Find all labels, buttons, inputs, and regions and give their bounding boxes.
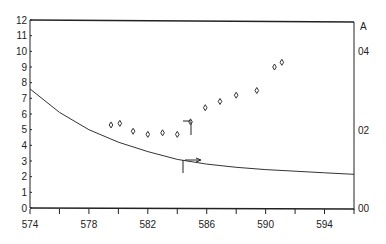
chart: 0123456789101112 574578582586590594 0002… bbox=[0, 0, 386, 244]
data-point-diamond bbox=[109, 122, 113, 128]
y-tick-label: 4 bbox=[21, 140, 27, 151]
y2-tick-label: 02 bbox=[358, 125, 370, 136]
data-point-diamond bbox=[146, 131, 150, 137]
y-tick-label: 8 bbox=[21, 77, 27, 88]
y-tick-label: 2 bbox=[21, 171, 27, 182]
y-tick-label: 5 bbox=[21, 124, 27, 135]
y2-tick-label: 00 bbox=[358, 203, 370, 214]
data-point-diamond bbox=[273, 64, 277, 70]
y-tick-label: 12 bbox=[16, 15, 28, 26]
data-point-diamond bbox=[118, 120, 122, 126]
y2-axis-ticks: 000204 bbox=[358, 46, 370, 214]
data-point-diamond bbox=[280, 59, 284, 65]
data-point-diamond bbox=[131, 128, 135, 134]
x-axis-ticks: 574578582586590594 bbox=[22, 209, 354, 230]
data-point-diamond bbox=[218, 98, 222, 104]
y-tick-label: 7 bbox=[21, 93, 27, 104]
y-tick-label: 9 bbox=[21, 62, 27, 73]
data-point-diamond bbox=[255, 88, 259, 94]
y-tick-label: 6 bbox=[21, 109, 27, 120]
y2-tick-label: 04 bbox=[358, 46, 370, 57]
y-tick-label: 10 bbox=[16, 46, 28, 57]
data-point-diamond bbox=[175, 131, 179, 137]
x-tick-label: 582 bbox=[139, 219, 156, 230]
x-tick-label: 574 bbox=[22, 219, 39, 230]
data-point-diamond bbox=[234, 92, 238, 98]
y-tick-label: 0 bbox=[21, 203, 27, 214]
y-tick-label: 11 bbox=[17, 30, 28, 41]
data-point-diamond bbox=[203, 105, 207, 111]
fitted-curve bbox=[30, 89, 354, 174]
data-point-diamond bbox=[161, 130, 165, 136]
x-tick-label: 586 bbox=[198, 219, 215, 230]
annotations bbox=[183, 121, 201, 173]
y-tick-label: 1 bbox=[21, 187, 27, 198]
x-tick-label: 590 bbox=[257, 219, 274, 230]
x-tick-label: 578 bbox=[81, 219, 98, 230]
y2-axis-label: A bbox=[360, 21, 367, 32]
plot-frame bbox=[30, 20, 354, 210]
x-tick-label: 594 bbox=[316, 219, 333, 230]
data-points bbox=[109, 59, 283, 137]
y-tick-label: 3 bbox=[21, 156, 27, 167]
